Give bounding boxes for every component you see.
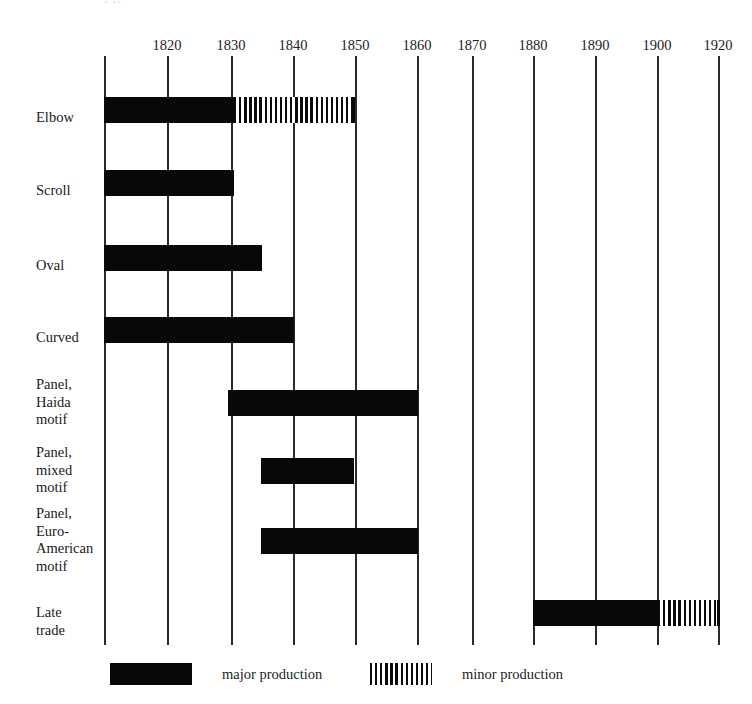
gridline-5 [417, 56, 419, 645]
row-label-line: Haida [36, 394, 132, 412]
legend-label-major: major production [222, 663, 322, 685]
gridline-3 [293, 56, 295, 645]
x-axis-tick-1830: 1830 [217, 37, 246, 53]
bar-major-late-trade [533, 600, 658, 626]
bar-minor-end-cap [717, 600, 720, 626]
bar-major-curved [104, 317, 294, 343]
bar-minor-late-trade [658, 600, 720, 626]
gridline-9 [657, 56, 659, 645]
production-timeline-chart: · ·· 18201830184018501860187018801890190… [0, 0, 752, 704]
bar-major-panel-mixed-motif [261, 458, 354, 484]
x-axis-tick-1890: 1890 [581, 37, 610, 53]
bar-major-panel-euro-american-motif [261, 528, 418, 554]
row-label-line: Panel, [36, 444, 132, 462]
x-axis-tick-1920: 1920 [704, 37, 733, 53]
row-label-line: trade [36, 622, 132, 640]
gridline-7 [533, 56, 535, 645]
x-axis-tick-1860: 1860 [403, 37, 432, 53]
legend-swatch-minor [370, 663, 432, 685]
row-label-line: motif [36, 479, 132, 497]
bar-major-oval [104, 245, 262, 271]
x-axis-tick-1820: 1820 [153, 37, 182, 53]
row-label-panel-haida-motif: Panel,Haidamotif [36, 376, 132, 429]
row-label-panel-mixed-motif: Panel,mixedmotif [36, 444, 132, 497]
x-axis-tick-1880: 1880 [519, 37, 548, 53]
row-label-late-trade: Latetrade [36, 604, 132, 639]
bar-major-scroll [104, 170, 234, 196]
row-label-line: Panel, [36, 505, 132, 523]
bar-minor-elbow [234, 97, 355, 123]
x-axis-tick-1900: 1900 [643, 37, 672, 53]
bar-major-panel-haida-motif [228, 390, 418, 416]
gridline-8 [595, 56, 597, 645]
gridline-4 [355, 56, 357, 645]
row-label-line: motif [36, 411, 132, 429]
x-axis-tick-1840: 1840 [279, 37, 308, 53]
gridline-2 [231, 56, 233, 645]
x-axis-tick-1870: 1870 [458, 37, 487, 53]
legend-swatch-major [110, 663, 192, 685]
row-label-panel-euro-american-motif: Panel,Euro-Americanmotif [36, 505, 132, 575]
x-axis-tick-1850: 1850 [341, 37, 370, 53]
bar-minor-end-cap [352, 97, 355, 123]
gridline-6 [472, 56, 474, 645]
bar-major-elbow [104, 97, 234, 123]
row-label-line: Late [36, 604, 132, 622]
legend-label-minor: minor production [462, 663, 563, 685]
gridline-10 [718, 56, 720, 645]
row-label-line: mixed [36, 462, 132, 480]
row-label-line: Euro- [36, 523, 132, 541]
row-label-line: motif [36, 558, 132, 576]
row-label-line: American [36, 540, 132, 558]
row-label-line: Panel, [36, 376, 132, 394]
gridline-1 [167, 56, 169, 645]
